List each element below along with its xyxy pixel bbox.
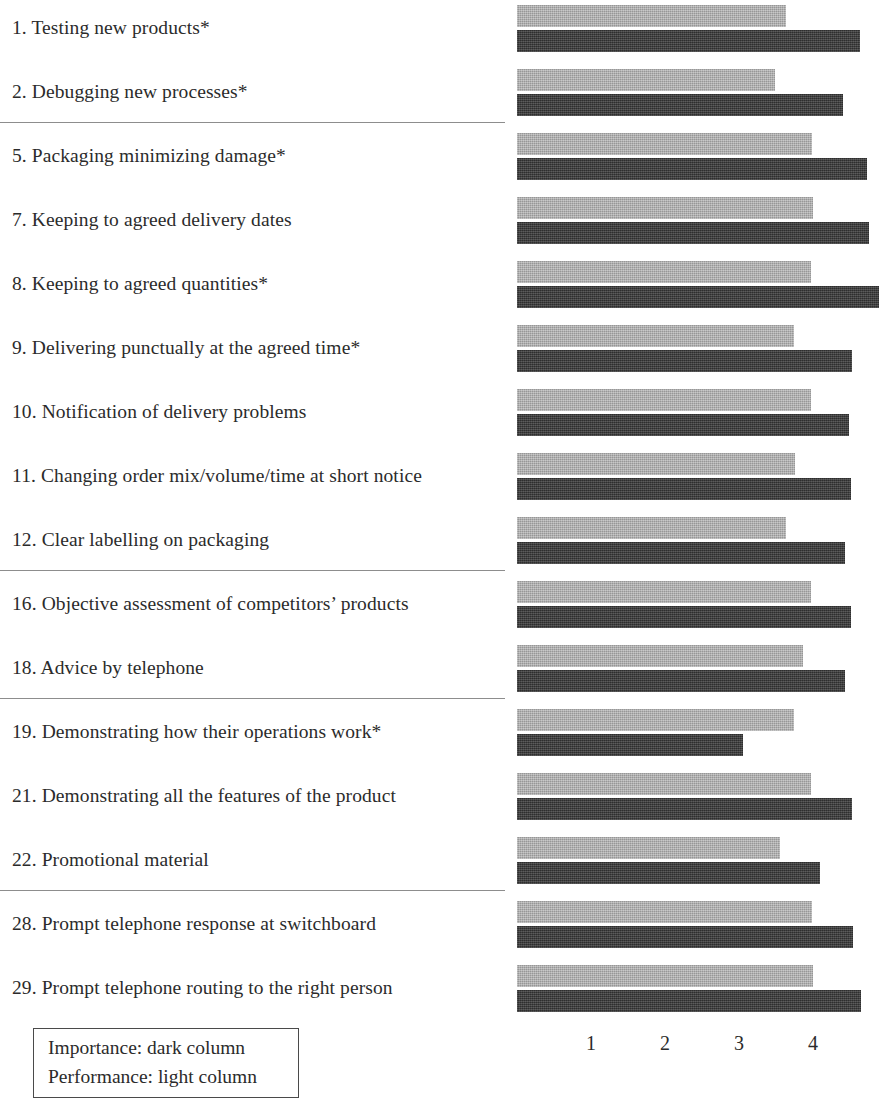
bar-pair: [0, 770, 879, 834]
x-axis-tick-label: 3: [719, 1032, 759, 1055]
chart-row: 19. Demonstrating how their operations w…: [0, 706, 879, 770]
performance-bar: [517, 5, 786, 27]
chart-row: 11. Changing order mix/volume/time at sh…: [0, 450, 879, 514]
importance-bar: [517, 94, 843, 116]
chart-row: 9. Delivering punctually at the agreed t…: [0, 322, 879, 386]
x-axis-tick-label: 4: [793, 1032, 833, 1055]
importance-bar: [517, 158, 867, 180]
importance-bar: [517, 926, 853, 948]
importance-bar: [517, 670, 845, 692]
importance-bar: [517, 350, 852, 372]
importance-bar: [517, 286, 879, 308]
bar-pair: [0, 194, 879, 258]
bar-pair: [0, 450, 879, 514]
performance-bar: [517, 709, 794, 731]
bar-pair: [0, 514, 879, 578]
chart-row: 1. Testing new products*: [0, 2, 879, 66]
bar-pair: [0, 706, 879, 770]
importance-bar: [517, 478, 851, 500]
bar-pair: [0, 66, 879, 130]
importance-bar: [517, 542, 845, 564]
chart-row: 29. Prompt telephone routing to the righ…: [0, 962, 879, 1026]
performance-bar: [517, 453, 795, 475]
importance-bar: [517, 862, 820, 884]
performance-bar: [517, 581, 811, 603]
performance-bar: [517, 773, 811, 795]
group-divider: [0, 890, 505, 891]
importance-bar: [517, 222, 869, 244]
chart-row: 28. Prompt telephone response at switchb…: [0, 898, 879, 962]
bar-pair: [0, 834, 879, 898]
chart-row: 18. Advice by telephone: [0, 642, 879, 706]
chart-row: 21. Demonstrating all the features of th…: [0, 770, 879, 834]
performance-bar: [517, 133, 812, 155]
performance-bar: [517, 325, 794, 347]
importance-bar: [517, 798, 852, 820]
x-axis-tick-label: 1: [571, 1032, 611, 1055]
performance-bar: [517, 645, 803, 667]
performance-bar: [517, 901, 812, 923]
bar-pair: [0, 130, 879, 194]
importance-bar: [517, 734, 743, 756]
chart-row: 5. Packaging minimizing damage*: [0, 130, 879, 194]
performance-bar: [517, 389, 811, 411]
importance-bar: [517, 606, 851, 628]
performance-bar: [517, 837, 780, 859]
bar-pair: [0, 2, 879, 66]
chart-row: 12. Clear labelling on packaging: [0, 514, 879, 578]
bar-pair: [0, 258, 879, 322]
performance-bar: [517, 197, 813, 219]
performance-bar: [517, 261, 811, 283]
chart-row: 16. Objective assessment of competitors’…: [0, 578, 879, 642]
performance-bar: [517, 517, 786, 539]
bar-pair: [0, 898, 879, 962]
chart-row: 2. Debugging new processes*: [0, 66, 879, 130]
importance-bar: [517, 30, 860, 52]
chart-row: 10. Notification of delivery problems: [0, 386, 879, 450]
chart-row: 7. Keeping to agreed delivery dates: [0, 194, 879, 258]
x-axis-tick-label: 2: [645, 1032, 685, 1055]
importance-bar: [517, 990, 861, 1012]
bar-pair: [0, 578, 879, 642]
bar-pair: [0, 386, 879, 450]
legend-performance-label: Performance: light column: [48, 1066, 257, 1088]
bar-pair: [0, 322, 879, 386]
group-divider: [0, 698, 505, 699]
chart-row: 22. Promotional material: [0, 834, 879, 898]
performance-bar: [517, 965, 813, 987]
legend-importance-label: Importance: dark column: [48, 1037, 245, 1059]
bar-pair: [0, 962, 879, 1026]
group-divider: [0, 122, 505, 123]
bar-pair: [0, 642, 879, 706]
importance-bar: [517, 414, 849, 436]
chart-row: 8. Keeping to agreed quantities*: [0, 258, 879, 322]
performance-bar: [517, 69, 775, 91]
group-divider: [0, 570, 505, 571]
chart-legend: Importance: dark column Performance: lig…: [33, 1028, 299, 1098]
